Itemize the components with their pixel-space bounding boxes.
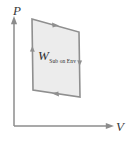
pressure-axis xyxy=(11,16,17,126)
volume-axis xyxy=(14,123,114,129)
work-annotation: WSub on Env xyxy=(38,47,76,63)
pv-diagram-canvas xyxy=(0,0,132,143)
work-symbol: W xyxy=(38,48,49,63)
volume-axis-label: V xyxy=(116,120,124,133)
work-subscript: Sub on Env xyxy=(49,58,76,64)
pressure-axis-label: P xyxy=(13,4,21,17)
pv-diagram-figure: P V WSub on Env xyxy=(0,0,132,143)
